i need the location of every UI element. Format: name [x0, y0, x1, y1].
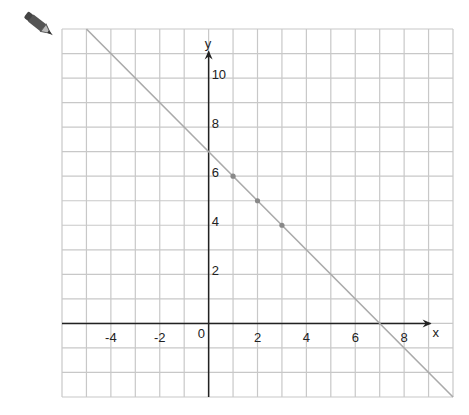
- x-tick-label: 4: [303, 330, 310, 345]
- x-axis-label: x: [433, 325, 440, 340]
- data-point: [279, 223, 284, 228]
- pencil-icon[interactable]: [20, 10, 62, 42]
- x-tick-label: -2: [154, 330, 166, 345]
- y-tick-label: 8: [212, 116, 219, 131]
- y-tick-label: 10: [212, 67, 226, 82]
- x-tick-label: 8: [401, 330, 408, 345]
- y-tick-label: 6: [212, 165, 219, 180]
- y-axis-label: y: [205, 36, 212, 51]
- data-point: [230, 174, 235, 179]
- origin-label: 0: [198, 326, 205, 341]
- data-line: [86, 29, 453, 397]
- y-tick-label: 2: [212, 263, 219, 278]
- x-tick-label: 2: [254, 330, 261, 345]
- coordinate-plane: -4-224682468100xy: [0, 0, 469, 415]
- y-tick-label: 4: [212, 214, 219, 229]
- x-tick-label: -4: [105, 330, 117, 345]
- data-point: [255, 198, 260, 203]
- x-tick-label: 6: [352, 330, 359, 345]
